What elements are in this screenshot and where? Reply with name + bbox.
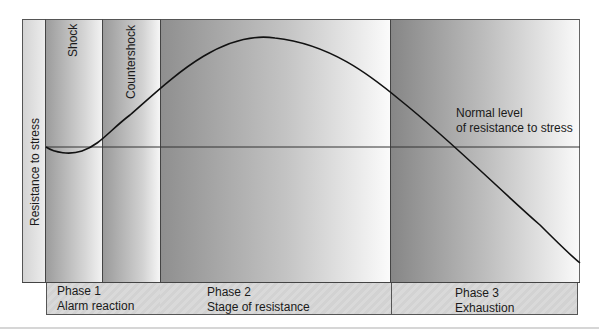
normal-level-label-line1: Normal level: [456, 106, 573, 121]
phase-3-name: Exhaustion: [455, 301, 514, 316]
phase-3-number: Phase 3: [455, 286, 514, 301]
resistance-curve: [46, 37, 580, 263]
phase-2-strip: Phase 2 Stage of resistance: [160, 283, 392, 315]
normal-level-label-line2: of resistance to stress: [456, 121, 573, 136]
phase-2-number: Phase 2: [207, 285, 310, 300]
phase-3-strip: Phase 3 Exhaustion: [391, 283, 578, 315]
page-divider: [0, 327, 599, 329]
phase-2-name: Stage of resistance: [207, 300, 310, 315]
phase-1-strip: Phase 1 Alarm reaction: [46, 283, 161, 315]
phase-1-name: Alarm reaction: [57, 299, 134, 314]
normal-level-label: Normal level of resistance to stress: [456, 106, 573, 136]
phase-1-number: Phase 1: [57, 284, 134, 299]
